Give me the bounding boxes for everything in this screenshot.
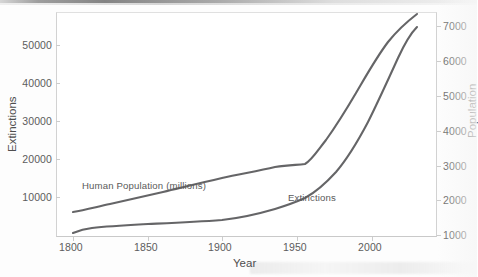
series-line-extinctions <box>73 27 417 233</box>
series-annotation-extinctions: Extinctions <box>288 192 336 203</box>
series-annotation-human-population: Human Population (millions) <box>82 180 206 191</box>
scan-right-fade-artifact <box>437 0 477 277</box>
